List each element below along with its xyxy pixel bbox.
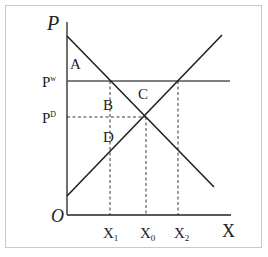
x2-label: X2: [174, 225, 189, 243]
domestic-price-label: PD: [42, 110, 56, 126]
x0-label: X0: [140, 225, 156, 243]
region-a-label: A: [70, 56, 81, 72]
origin-label: O: [51, 206, 64, 226]
region-d-label: D: [103, 129, 114, 145]
demand-curve: [67, 36, 214, 187]
supply-demand-diagram: P O X Pw PD X1 X0 X2 A B C D: [0, 0, 268, 257]
region-b-label: B: [103, 97, 113, 113]
x-axis-label: X: [222, 221, 235, 241]
x1-label: X1: [103, 225, 118, 243]
region-c-label: C: [138, 86, 148, 102]
world-price-label: Pw: [42, 74, 56, 90]
y-axis-label: P: [46, 12, 59, 34]
